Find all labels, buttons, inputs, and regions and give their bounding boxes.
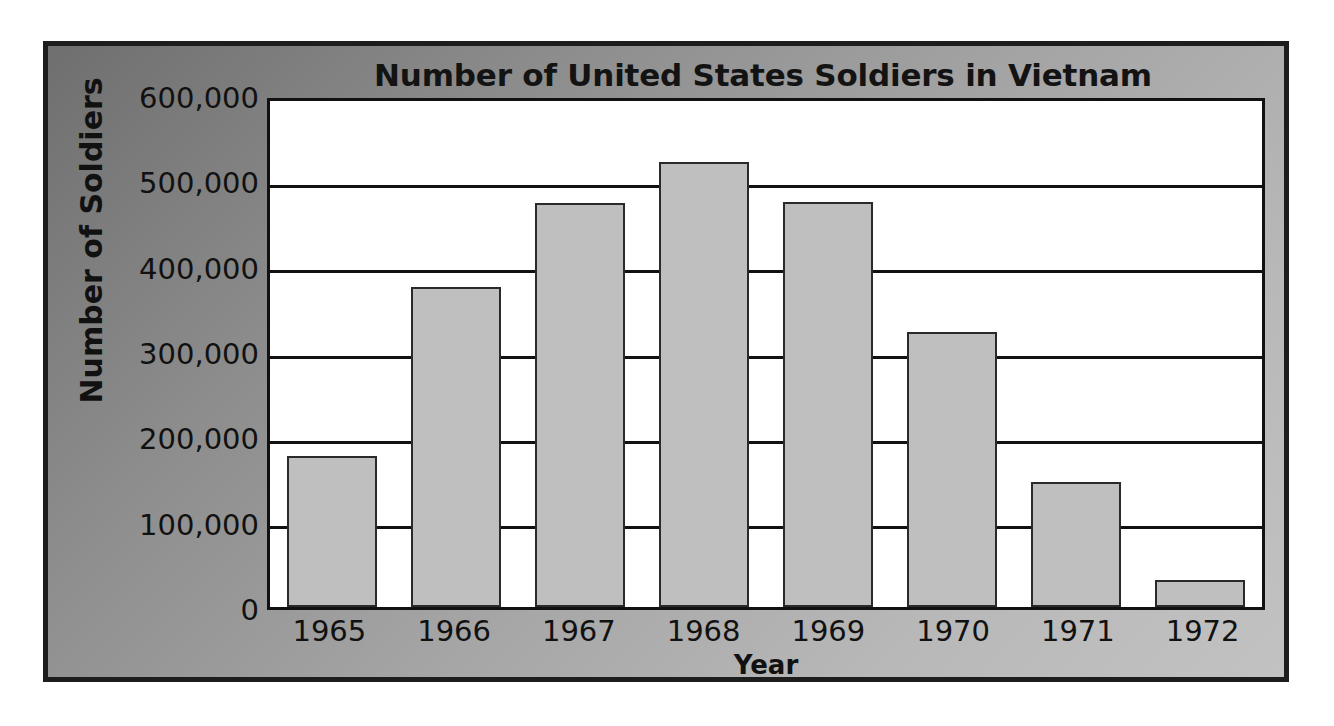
chart-title: Number of United States Soldiers in Viet… (248, 51, 1278, 99)
bar-slot (766, 101, 890, 607)
bar-slot (890, 101, 1014, 607)
bar (659, 162, 748, 607)
bar-slot (394, 101, 518, 607)
plot-inner (270, 101, 1262, 607)
bar (411, 287, 500, 607)
plot-area (267, 98, 1265, 610)
bar-series (270, 101, 1262, 607)
y-axis-tick-label: 500,000 (84, 166, 259, 200)
bar (783, 202, 872, 607)
bar (907, 332, 996, 607)
bar-slot (270, 101, 394, 607)
y-axis-tick-label: 600,000 (84, 81, 259, 115)
y-axis-tick-label: 200,000 (84, 422, 259, 456)
bar (1155, 580, 1244, 607)
y-axis-tick-label: 300,000 (84, 337, 259, 371)
bar (1031, 482, 1120, 607)
x-axis-title: Year (267, 650, 1265, 680)
y-axis-tick-label: 400,000 (84, 252, 259, 286)
y-axis-tick-labels: 0100,000200,000300,000400,000500,000600,… (73, 98, 259, 610)
bar (535, 203, 624, 607)
bar-slot (1014, 101, 1138, 607)
bar (287, 456, 376, 607)
bar-slot (642, 101, 766, 607)
y-axis-tick-label: 0 (84, 593, 259, 627)
chart-panel: Number of United States Soldiers in Viet… (43, 41, 1289, 682)
chart-figure: Number of United States Soldiers in Viet… (0, 0, 1334, 726)
bar-slot (1138, 101, 1262, 607)
y-axis-tick-label: 100,000 (84, 508, 259, 542)
bar-slot (518, 101, 642, 607)
